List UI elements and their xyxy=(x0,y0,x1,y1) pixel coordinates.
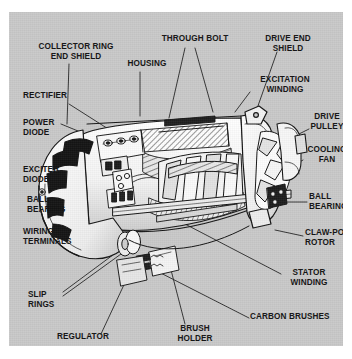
label-drive-pulley: DRIVE PULLEY xyxy=(306,112,343,131)
label-exciter-diode: EXCITER DIODE xyxy=(23,165,75,184)
label-collector-ring-end-shield: COLLECTOR RING END SHIELD xyxy=(22,42,130,61)
label-ball-bearing-right: BALL BEARING xyxy=(309,192,343,211)
label-cooling-fan: COOLING FAN xyxy=(303,145,343,164)
label-slip-rings: SLIP RINGS xyxy=(28,290,62,309)
label-rectifier: RECTIFIER xyxy=(23,91,77,101)
slip-rings xyxy=(118,230,141,256)
label-wiring-terminals: WIRING TERMINALS xyxy=(23,227,87,246)
ball-bearing-right xyxy=(267,184,287,208)
voltage-regulator xyxy=(117,256,147,286)
label-power-diode: POWER DIODE xyxy=(23,118,69,137)
label-housing: HOUSING xyxy=(121,59,173,69)
label-stator-winding: STATOR WINDING xyxy=(282,268,336,287)
label-carbon-brushes: CARBON BRUSHES xyxy=(250,312,343,322)
illustration-panel: COLLECTOR RING END SHIELDTHROUGH BOLTDRI… xyxy=(9,12,343,346)
label-excitation-winding: EXCITATION WINDING xyxy=(252,75,318,94)
label-through-bolt: THROUGH BOLT xyxy=(155,34,235,44)
label-regulator: REGULATOR xyxy=(57,332,119,342)
ball-bearing-left xyxy=(113,169,133,192)
brush-holder xyxy=(149,246,179,276)
label-ball-bearing-left: BALL BEARING xyxy=(27,195,79,214)
label-brush-holder: BRUSH HOLDER xyxy=(170,324,220,343)
alternator-cutaway-figure: COLLECTOR RING END SHIELDTHROUGH BOLTDRI… xyxy=(0,0,352,359)
label-drive-end-shield: DRIVE END SHIELD xyxy=(257,34,319,53)
label-claw-pole-rotor: CLAW-POLE ROTOR xyxy=(305,228,343,247)
